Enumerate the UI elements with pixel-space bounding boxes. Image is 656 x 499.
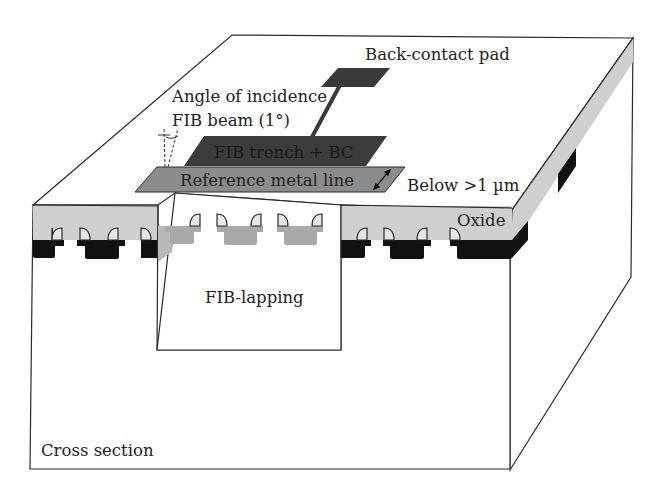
fib-beam-angle-label: FIB beam (1°)	[172, 111, 290, 130]
fib-trench-label: FIB trench + BC	[214, 143, 354, 162]
angle-of-incidence-label: Angle of incidence	[171, 87, 327, 106]
oxide-label: Oxide	[457, 211, 505, 230]
reference-metal-line-label: Reference metal line	[180, 171, 354, 190]
back-contact-pad-label: Back-contact pad	[365, 45, 510, 64]
fib-lapping-label: FIB-lapping	[205, 288, 304, 307]
below-depth-label: Below >1 µm	[407, 176, 520, 195]
cross-section-label: Cross section	[41, 441, 154, 460]
fib-cross-section-diagram: FIB trench + BC Reference metal line Bac…	[0, 0, 656, 499]
exposed-metal-lines	[165, 226, 323, 245]
fib-lapped-face	[157, 193, 341, 350]
